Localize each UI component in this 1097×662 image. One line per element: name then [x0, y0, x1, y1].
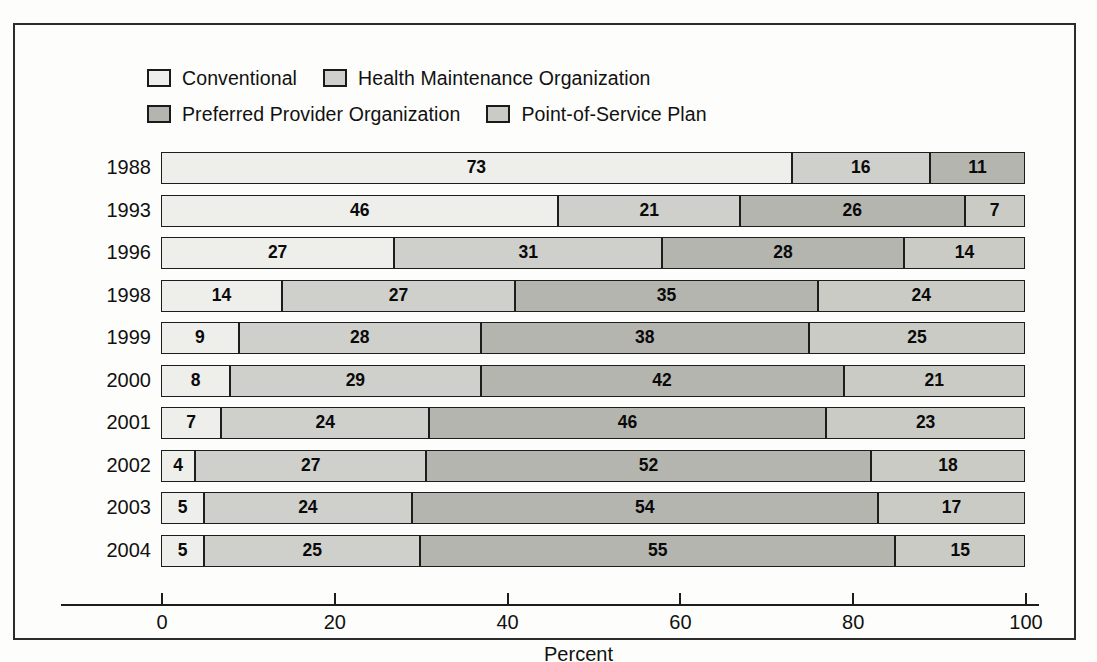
- bar-segment-value: 21: [639, 202, 658, 220]
- bar-segment-value: 16: [851, 159, 870, 177]
- bar-row-year-label: 1988: [65, 151, 151, 184]
- chart-figure: ConventionalHealth Maintenance Organizat…: [0, 0, 1097, 662]
- bar-segment-value: 26: [842, 202, 861, 220]
- bar-row-year-label: 1993: [65, 194, 151, 227]
- bar-segment[interactable]: 4: [161, 450, 195, 482]
- bar-segment[interactable]: 7: [965, 195, 1025, 227]
- bar-segment[interactable]: 5: [161, 535, 204, 567]
- bar-segment[interactable]: 25: [809, 322, 1025, 354]
- bar-segment[interactable]: 11: [930, 152, 1025, 184]
- chart-legend: ConventionalHealth Maintenance Organizat…: [147, 60, 907, 132]
- x-axis-tick: [852, 593, 854, 605]
- bar-segment-value: 35: [657, 287, 676, 305]
- bar-segment[interactable]: 35: [515, 280, 817, 312]
- legend-item-label: Conventional: [182, 67, 297, 90]
- bar-segment[interactable]: 24: [204, 492, 411, 524]
- x-axis-tick: [161, 593, 163, 605]
- x-axis-tick-label: 20: [305, 611, 365, 634]
- bar-segment-value: 4: [173, 457, 183, 475]
- bar-segment[interactable]: 14: [161, 280, 282, 312]
- bar-segment-value: 46: [618, 414, 637, 432]
- bar-segment[interactable]: 46: [161, 195, 558, 227]
- bar-segment[interactable]: 16: [792, 152, 930, 184]
- legend-item[interactable]: Conventional: [147, 67, 297, 90]
- bar-segment-value: 8: [191, 372, 201, 390]
- x-axis: 020406080100 Percent: [15, 581, 1097, 662]
- bar-segment-value: 54: [635, 499, 654, 517]
- bar-row: 199814273524: [15, 279, 1097, 322]
- chart-plot-area: 1988731611199346212671996273128141998142…: [15, 151, 1097, 571]
- legend-item[interactable]: Preferred Provider Organization: [147, 103, 460, 126]
- bar-segment[interactable]: 18: [871, 450, 1025, 482]
- legend-item[interactable]: Health Maintenance Organization: [323, 67, 651, 90]
- bar-segment[interactable]: 38: [481, 322, 809, 354]
- bar-segment[interactable]: 21: [558, 195, 739, 227]
- x-axis-tick-label: 60: [650, 611, 710, 634]
- bar-segment[interactable]: 23: [826, 407, 1025, 439]
- bar-row-year-label: 2003: [65, 491, 151, 524]
- bar-segment-value: 46: [350, 202, 369, 220]
- bar-segment[interactable]: 17: [878, 492, 1025, 524]
- x-axis-tick-label: 80: [823, 611, 883, 634]
- bar-segment-value: 5: [178, 499, 188, 517]
- bar-segment[interactable]: 55: [420, 535, 895, 567]
- bar-segment-value: 5: [178, 542, 188, 560]
- bar-segment[interactable]: 46: [429, 407, 826, 439]
- bar-segment-value: 27: [268, 244, 287, 262]
- bar-segment[interactable]: 27: [282, 280, 515, 312]
- x-axis-title-label: Percent: [514, 643, 613, 662]
- x-axis-tick: [679, 593, 681, 605]
- bar-segment-value: 15: [950, 542, 969, 560]
- bar-segment[interactable]: 21: [844, 365, 1025, 397]
- bar-row-year-label: 1999: [65, 321, 151, 354]
- bar-segment[interactable]: 15: [895, 535, 1025, 567]
- bar-segment[interactable]: 5: [161, 492, 204, 524]
- stacked-bar: 4275218: [161, 450, 1025, 482]
- x-axis-tick-label: 100: [996, 611, 1056, 634]
- bar-row: 20024275218: [15, 449, 1097, 492]
- stacked-bar: 14273524: [161, 280, 1025, 312]
- bar-segment-value: 73: [467, 159, 486, 177]
- bar-segment-value: 14: [212, 287, 231, 305]
- bar-segment[interactable]: 24: [818, 280, 1025, 312]
- x-axis-line: [61, 604, 1039, 606]
- bar-segment[interactable]: 28: [239, 322, 481, 354]
- bar-segment[interactable]: 73: [161, 152, 792, 184]
- bar-row-year-label: 1998: [65, 279, 151, 312]
- stacked-bar: 5255515: [161, 535, 1025, 567]
- bar-segment[interactable]: 24: [221, 407, 428, 439]
- stacked-bar: 4621267: [161, 195, 1025, 227]
- bar-segment[interactable]: 54: [412, 492, 879, 524]
- bar-segment[interactable]: 9: [161, 322, 239, 354]
- bar-row-year-label: 2000: [65, 364, 151, 397]
- stacked-bar: 27312814: [161, 237, 1025, 269]
- legend-row: ConventionalHealth Maintenance Organizat…: [147, 60, 907, 96]
- bar-segment[interactable]: 27: [161, 237, 394, 269]
- bar-segment[interactable]: 26: [740, 195, 965, 227]
- bar-segment[interactable]: 14: [904, 237, 1025, 269]
- bar-segment-value: 24: [315, 414, 334, 432]
- bar-row-year-label: 2001: [65, 406, 151, 439]
- bar-segment[interactable]: 8: [161, 365, 230, 397]
- x-axis-tick: [334, 593, 336, 605]
- legend-swatch-icon: [147, 69, 171, 87]
- bar-segment[interactable]: 7: [161, 407, 221, 439]
- x-axis-tick: [507, 593, 509, 605]
- bar-segment-value: 25: [907, 329, 926, 347]
- bar-segment-value: 25: [302, 542, 321, 560]
- bar-segment[interactable]: 29: [230, 365, 481, 397]
- x-axis-title: Percent: [15, 643, 1097, 662]
- bar-segment[interactable]: 28: [662, 237, 904, 269]
- bar-segment[interactable]: 31: [394, 237, 662, 269]
- x-axis-tick-label: 0: [132, 611, 192, 634]
- bar-segment[interactable]: 52: [426, 450, 871, 482]
- bar-segment[interactable]: 27: [195, 450, 426, 482]
- bar-segment-value: 24: [298, 499, 317, 517]
- bar-row-year-label: 1996: [65, 236, 151, 269]
- bar-segment[interactable]: 42: [481, 365, 844, 397]
- bar-segment[interactable]: 25: [204, 535, 420, 567]
- stacked-bar: 7244623: [161, 407, 1025, 439]
- legend-item[interactable]: Point-of-Service Plan: [486, 103, 706, 126]
- bar-row-year-label: 2004: [65, 534, 151, 567]
- bar-segment-value: 29: [346, 372, 365, 390]
